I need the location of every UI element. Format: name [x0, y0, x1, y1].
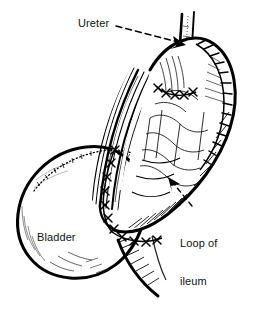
label-loop-of-ileum: Loop of ileum [180, 212, 217, 310]
figure-root: THE OF THE BLADDER TO ILEUM [0, 0, 258, 310]
label-ureter: Ureter [78, 17, 109, 30]
label-loop-of-ileum-line1: Loop of [180, 237, 217, 250]
label-bladder: Bladder [37, 231, 76, 244]
label-loop-of-ileum-line2: ileum [180, 275, 217, 288]
anatomical-illustration [0, 0, 258, 310]
